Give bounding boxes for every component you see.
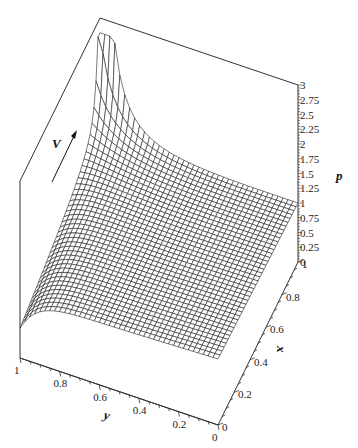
- box-edge: [100, 18, 298, 85]
- y-tick-label: 0: [212, 431, 218, 443]
- x-axis-title: x: [274, 345, 289, 353]
- z-tick-label: 1.75: [300, 153, 320, 165]
- z-tick-label: 0.5: [300, 227, 314, 239]
- z-tick-label: 1.5: [300, 168, 314, 180]
- z-tick-label: 0.75: [300, 212, 320, 224]
- x-tick-label: 0.2: [238, 388, 252, 400]
- y-axis-ticks: 00.20.40.60.81: [14, 358, 219, 443]
- y-axis-title: y: [100, 407, 112, 424]
- arrowhead-icon: [71, 130, 77, 139]
- z-tick-label: 2.75: [300, 94, 320, 106]
- z-tick-label: 2.5: [300, 109, 314, 121]
- y-tick-label: 1: [14, 364, 20, 376]
- z-tick-label: 0: [300, 256, 306, 268]
- z-tick-label: 1.25: [300, 182, 320, 194]
- y-tick-label: 0.8: [54, 377, 68, 389]
- z-tick-label: 1: [300, 197, 306, 209]
- velocity-annotation: V: [52, 130, 77, 182]
- x-tick-label: 0.6: [270, 323, 284, 335]
- y-tick-label: 0.6: [93, 391, 107, 403]
- y-tick-label: 0.2: [172, 418, 186, 430]
- x-tick-label: 0: [222, 421, 228, 433]
- z-tick-label: 2.25: [300, 123, 320, 135]
- z-tick-label: 3: [300, 79, 306, 91]
- x-tick-label: 0.8: [286, 291, 300, 303]
- y-tick-label: 0.4: [133, 404, 147, 416]
- velocity-label: V: [52, 136, 62, 151]
- z-axis-ticks: 00.250.50.7511.251.51.7522.252.52.753: [298, 79, 320, 268]
- z-axis-title: p: [335, 168, 343, 183]
- surface-mesh: [20, 33, 298, 359]
- surface-plot: 00.20.40.60.81 00.20.40.60.81 00.250.50.…: [0, 0, 358, 448]
- z-tick-label: 2: [300, 138, 306, 150]
- z-tick-label: 0.25: [300, 241, 320, 253]
- x-tick-label: 0.4: [254, 356, 268, 368]
